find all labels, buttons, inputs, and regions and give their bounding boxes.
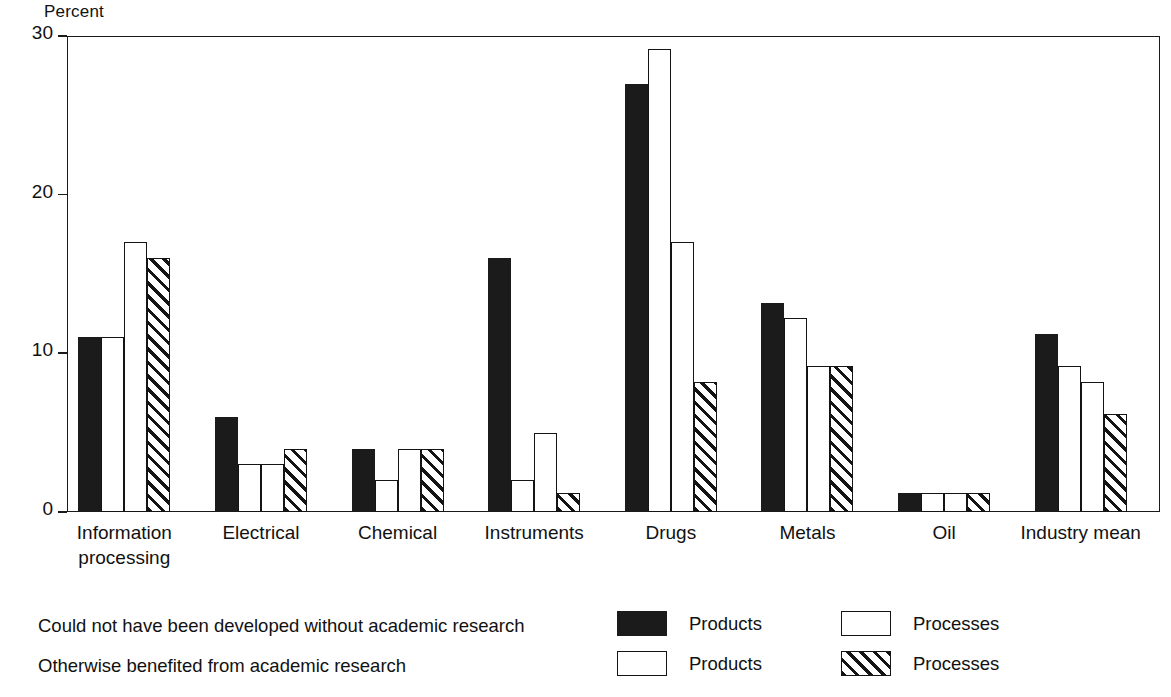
bar xyxy=(807,366,830,512)
bar xyxy=(534,433,557,512)
legend-key-processes-open: Processes xyxy=(841,611,999,636)
bar xyxy=(147,258,170,512)
bar xyxy=(1081,382,1104,512)
bar xyxy=(921,493,944,512)
bar xyxy=(898,493,921,512)
legend-key-label: Processes xyxy=(913,653,999,675)
legend-key-label: Processes xyxy=(913,613,999,635)
bar xyxy=(830,366,853,512)
chart-legend: Could not have been developed without ac… xyxy=(0,604,1171,690)
legend-swatch-solid xyxy=(617,611,667,636)
bar xyxy=(1035,334,1058,512)
bar xyxy=(352,449,375,512)
y-tick-mark xyxy=(58,352,67,354)
bar xyxy=(944,493,967,512)
bar xyxy=(671,242,694,512)
bar xyxy=(78,337,101,512)
legend-key-label: Products xyxy=(689,653,762,675)
bar xyxy=(238,464,261,512)
bar xyxy=(511,480,534,512)
legend-swatch-open xyxy=(841,611,891,636)
bar xyxy=(1058,366,1081,512)
y-tick-mark xyxy=(58,35,67,37)
bar xyxy=(124,242,147,512)
y-tick-mark xyxy=(58,194,67,196)
y-tick-label: 0 xyxy=(42,499,53,518)
bar xyxy=(625,84,648,512)
x-axis-labels: Information processingElectricalChemical… xyxy=(67,520,1160,590)
legend-description-2: Otherwise benefited from academic resear… xyxy=(38,655,406,677)
legend-swatch-open xyxy=(617,651,667,676)
y-tick-mark xyxy=(58,511,67,513)
legend-key-products-open: Products xyxy=(617,651,762,676)
legend-key-products-solid: Products xyxy=(617,611,762,636)
bar xyxy=(784,318,807,512)
y-tick-label: 30 xyxy=(32,23,53,42)
bar xyxy=(488,258,511,512)
bar xyxy=(967,493,990,512)
bar xyxy=(557,493,580,512)
legend-key-label: Products xyxy=(689,613,762,635)
x-axis-label: Industry mean xyxy=(971,520,1171,545)
bar xyxy=(375,480,398,512)
y-axis-title: Percent xyxy=(44,2,104,22)
bar xyxy=(648,49,671,512)
bar xyxy=(398,449,421,512)
bar xyxy=(261,464,284,512)
bars-layer xyxy=(67,36,1160,512)
bar xyxy=(761,303,784,512)
y-tick-label: 10 xyxy=(32,340,53,359)
legend-swatch-hatch xyxy=(841,651,891,676)
legend-key-processes-hatch: Processes xyxy=(841,651,999,676)
bar xyxy=(421,449,444,512)
bar xyxy=(215,417,238,512)
bar xyxy=(101,337,124,512)
bar xyxy=(1104,414,1127,512)
y-tick-label: 20 xyxy=(32,182,53,201)
bar xyxy=(694,382,717,512)
bar xyxy=(284,449,307,512)
legend-description-1: Could not have been developed without ac… xyxy=(38,615,524,637)
